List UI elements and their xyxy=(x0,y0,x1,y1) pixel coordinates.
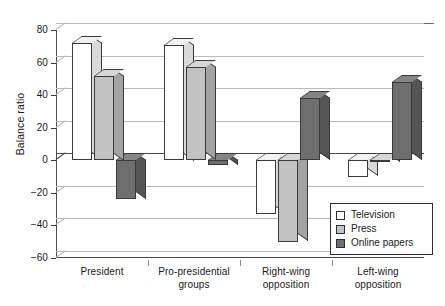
bar-press xyxy=(186,67,206,160)
x-axis-separator xyxy=(148,260,149,266)
bar-side-face xyxy=(206,60,216,160)
legend: TelevisionPressOnline papers xyxy=(330,203,433,255)
bar-side-face xyxy=(114,69,124,161)
bar-online-papers xyxy=(116,160,136,199)
y-axis-tick-labels: 806040200−20−40−60 xyxy=(14,0,48,306)
legend-label: Press xyxy=(351,224,377,234)
y-axis-tick-label: 80 xyxy=(18,25,48,35)
bar-television xyxy=(256,160,276,214)
x-axis-category-label: Pro-presidentialgroups xyxy=(148,266,240,291)
bar-television xyxy=(72,43,92,160)
legend-swatch-icon xyxy=(336,211,345,220)
bar-front-face xyxy=(164,45,184,161)
bar-front-face xyxy=(94,76,114,161)
x-axis-label-line: Left-wing xyxy=(332,266,424,279)
y-axis-tick-label: −60 xyxy=(18,253,48,263)
bar-front-face xyxy=(392,82,412,160)
bar-side-face xyxy=(136,153,146,199)
x-axis-category-label: President xyxy=(56,266,148,279)
x-axis-category-labels: PresidentPro-presidentialgroupsRight-win… xyxy=(56,266,434,306)
y-axis-tick-label: 40 xyxy=(18,90,48,100)
bar-online-papers xyxy=(208,160,228,165)
legend-swatch-icon xyxy=(336,239,345,248)
bar-front-face xyxy=(72,43,92,160)
x-axis-label-line: Pro-presidential xyxy=(148,266,240,279)
bar-front-face xyxy=(256,160,276,214)
bar-front-face xyxy=(300,98,320,160)
bar-press xyxy=(94,76,114,161)
x-axis-category-label: Left-wingopposition xyxy=(332,266,424,291)
y-axis-tick-label: −20 xyxy=(18,188,48,198)
bar-press xyxy=(370,160,390,162)
x-axis-label-line: opposition xyxy=(240,279,332,292)
y-axis-tick-label: −40 xyxy=(18,220,48,230)
bar-front-face xyxy=(186,67,206,160)
bar-side-face xyxy=(412,75,422,160)
legend-label: Television xyxy=(351,210,395,220)
bar-television xyxy=(164,45,184,161)
bar-front-face xyxy=(208,160,228,165)
x-axis-separator xyxy=(332,260,333,266)
balance-ratio-chart: Balance ratio 806040200−20−40−60 Preside… xyxy=(0,0,445,306)
legend-item: Press xyxy=(336,222,427,236)
y-axis-tick xyxy=(51,258,56,259)
bar-side-face xyxy=(298,153,308,241)
bar-online-papers xyxy=(300,98,320,160)
legend-item: Online papers xyxy=(336,236,427,250)
bar-online-papers xyxy=(392,82,412,160)
bar-front-face xyxy=(348,160,368,176)
y-axis-tick-label: 20 xyxy=(18,123,48,133)
bar-front-face xyxy=(370,160,390,162)
bar-press xyxy=(278,160,298,241)
bar-front-face xyxy=(278,160,298,241)
x-axis-label-line: opposition xyxy=(332,279,424,292)
legend-label: Online papers xyxy=(351,238,413,248)
x-axis-label-line: Right-wing xyxy=(240,266,332,279)
bar-television xyxy=(348,160,368,176)
x-axis-separator xyxy=(240,260,241,266)
x-axis-category-label: Right-wingopposition xyxy=(240,266,332,291)
y-axis-tick-label: 0 xyxy=(18,155,48,165)
bar-front-face xyxy=(116,160,136,199)
y-axis-tick-label: 60 xyxy=(18,58,48,68)
x-axis-label-line: groups xyxy=(148,279,240,292)
x-axis-label-line: President xyxy=(56,266,148,279)
bar-side-face xyxy=(320,91,330,160)
legend-swatch-icon xyxy=(336,225,345,234)
legend-item: Television xyxy=(336,208,427,222)
